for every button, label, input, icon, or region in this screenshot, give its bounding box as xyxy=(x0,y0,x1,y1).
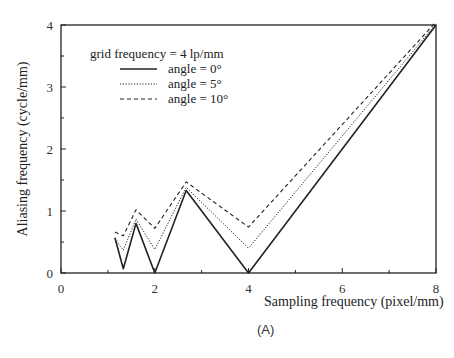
figure-caption: (A) xyxy=(257,322,274,337)
plot-axes xyxy=(61,25,436,273)
y-axis-label: Aliasing frequency (cycle/mm) xyxy=(15,61,31,236)
aliasing-chart: 0246801234 grid frequency = 4 lp/mmangle… xyxy=(0,0,454,358)
x-axis-label: Sampling frequency (pixel/mm) xyxy=(264,294,444,310)
x-tick-label: 4 xyxy=(245,281,252,296)
legend: grid frequency = 4 lp/mmangle = 0°angle … xyxy=(90,46,228,106)
y-tick-label: 0 xyxy=(47,266,54,281)
legend-entry-2: angle = 10° xyxy=(168,91,228,106)
series-line-0 xyxy=(115,25,436,273)
legend-entry-1: angle = 5° xyxy=(168,76,222,91)
y-tick-label: 3 xyxy=(47,80,54,95)
y-tick-label: 1 xyxy=(47,204,54,219)
legend-entry-0: angle = 0° xyxy=(168,61,222,76)
plot-frame xyxy=(61,25,436,273)
x-tick-label: 0 xyxy=(58,281,65,296)
y-tick-label: 2 xyxy=(47,142,54,157)
legend-title: grid frequency = 4 lp/mm xyxy=(90,46,224,61)
x-tick-label: 2 xyxy=(152,281,159,296)
y-tick-label: 4 xyxy=(47,18,54,33)
